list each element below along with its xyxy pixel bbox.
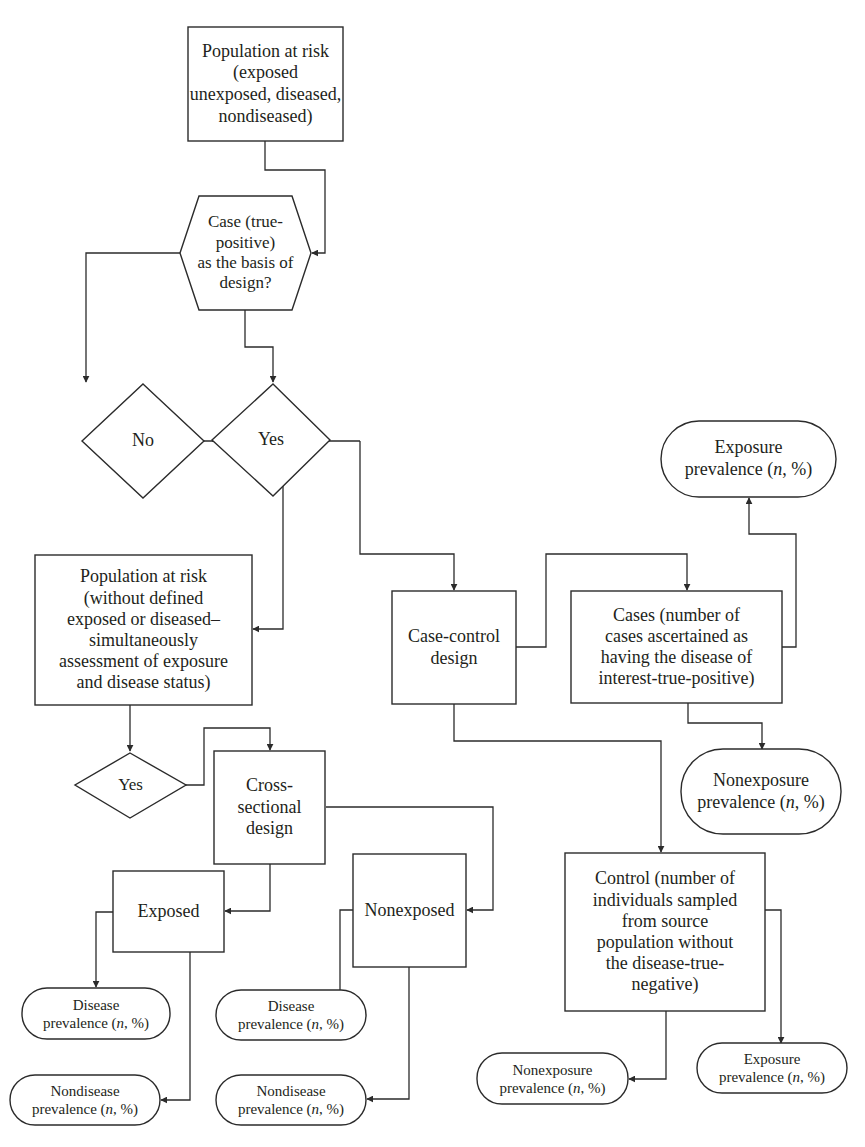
node-control-exposure-prevalence[interactable] — [697, 1043, 847, 1093]
edge-case-control-to-control — [454, 704, 661, 852]
node-population-undefined[interactable] — [35, 555, 252, 705]
edge-cross-sectional-to-exposed — [225, 864, 270, 911]
node-cases-nonexposure-prevalence[interactable] — [681, 749, 841, 834]
edge-exposed-to-disease-prevalence — [96, 912, 113, 987]
node-nonexposed-disease-prevalence[interactable] — [216, 990, 366, 1040]
node-population-top[interactable] — [188, 27, 343, 141]
node-no-diamond[interactable] — [82, 384, 204, 498]
node-cases[interactable] — [571, 591, 782, 703]
node-exposed[interactable] — [113, 871, 224, 952]
node-yes-diamond-cross[interactable] — [75, 753, 186, 818]
node-case-decision-hexagon[interactable] — [180, 196, 311, 310]
edge-nonexposed-to-nondisease-prevalence — [367, 967, 409, 1099]
edge-control-to-exposure-prevalence — [765, 910, 781, 1043]
edge-control-to-nonexposure-prevalence — [629, 1011, 666, 1079]
node-control-nonexposure-prevalence[interactable] — [477, 1053, 628, 1104]
node-yes-diamond-case[interactable] — [212, 384, 330, 496]
edge-case-decision-to-no — [86, 253, 180, 382]
edge-case-decision-to-yes — [245, 310, 273, 382]
node-exposed-disease-prevalence[interactable] — [22, 988, 170, 1039]
node-control[interactable] — [565, 853, 765, 1011]
node-cases-exposure-prevalence[interactable] — [661, 421, 836, 497]
node-exposed-nondisease-prevalence[interactable] — [10, 1075, 160, 1125]
flowchart-canvas — [0, 0, 865, 1147]
edge-cases-to-nonexposure-prevalence — [688, 703, 762, 749]
node-nonexposed-nondisease-prevalence[interactable] — [216, 1075, 366, 1125]
node-nonexposed[interactable] — [353, 854, 466, 967]
node-case-control-design[interactable] — [392, 591, 516, 704]
node-cross-sectional-design[interactable] — [214, 751, 325, 864]
nodes — [10, 27, 847, 1125]
